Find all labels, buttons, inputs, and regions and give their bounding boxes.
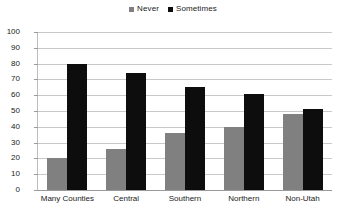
y-axis-tick-label: 100 [0, 28, 20, 36]
bar-never-many-counties[interactable] [47, 158, 67, 190]
legend-item-label: Sometimes [176, 4, 217, 14]
plot-area: 1009080706050403020100 [38, 32, 332, 190]
y-axis-tick-label: 60 [0, 91, 20, 99]
x-axis-tick-label: Central [113, 194, 139, 204]
bar-never-southern[interactable] [165, 133, 185, 190]
x-axis-tick-label: Northern [228, 194, 259, 204]
x-axis-tick-label: Southern [169, 194, 201, 204]
bar-never-non-utah[interactable] [283, 114, 303, 190]
x-axis-tick-label: Many Counties [41, 194, 94, 204]
bar-group [38, 32, 97, 190]
y-axis-tick-label: 80 [0, 60, 20, 68]
y-axis-tick-label: 10 [0, 170, 20, 178]
y-axis-tick-label: 90 [0, 44, 20, 52]
y-axis-tick-label: 30 [0, 139, 20, 147]
legend-item-never[interactable]: Never [129, 4, 159, 14]
y-axis-tick-label: 50 [0, 107, 20, 115]
gridline [38, 190, 332, 191]
bar-group [273, 32, 332, 190]
bar-group [97, 32, 156, 190]
bar-sometimes-non-utah[interactable] [303, 109, 323, 190]
legend-square-marker [168, 7, 173, 12]
y-axis-tick-label: 40 [0, 123, 20, 131]
bar-chart: NeverSometimes 1009080706050403020100 Ma… [0, 0, 346, 210]
bar-sometimes-southern[interactable] [185, 87, 205, 190]
x-axis-tick-label: Non-Utah [285, 194, 319, 204]
y-axis-tick-label: 0 [0, 186, 20, 194]
bar-never-central[interactable] [106, 149, 126, 190]
bar-sometimes-northern[interactable] [244, 94, 264, 190]
legend-item-sometimes[interactable]: Sometimes [168, 4, 217, 14]
bar-group [214, 32, 273, 190]
chart-legend: NeverSometimes [0, 4, 346, 14]
bar-sometimes-many-counties[interactable] [67, 64, 87, 190]
legend-square-marker [129, 7, 134, 12]
bar-sometimes-central[interactable] [126, 73, 146, 190]
y-axis-tickmark [34, 190, 38, 191]
legend-item-label: Never [137, 4, 159, 14]
y-axis-tick-label: 20 [0, 154, 20, 162]
bar-never-northern[interactable] [224, 127, 244, 190]
y-axis-tick-label: 70 [0, 75, 20, 83]
bar-group [156, 32, 215, 190]
